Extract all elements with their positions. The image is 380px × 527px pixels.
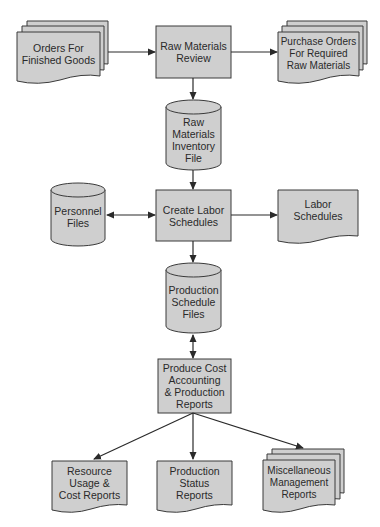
raw-materials-inventory-file-label: Raw Materials Inventory File — [166, 112, 221, 168]
produce-cost-accounting-label: Produce Cost Accounting & Production Rep… — [158, 359, 231, 413]
flowchart-canvas — [0, 0, 380, 527]
labor-schedules-label: Labor Schedules — [278, 190, 358, 230]
arrow-cost-to-resource-usage — [94, 413, 193, 459]
orders-for-finished-goods-label: Orders For Finished Goods — [17, 34, 100, 74]
raw-materials-review-label: Raw Materials Review — [156, 26, 231, 78]
production-status-reports-label: Production Status Reports — [157, 461, 232, 505]
create-labor-schedules-label: Create Labor Schedules — [156, 190, 231, 241]
purchase-orders-label: Purchase Orders For Required Raw Materia… — [278, 32, 359, 76]
production-schedule-files-label: Production Schedule Files — [166, 276, 221, 328]
resource-usage-cost-reports-label: Resource Usage & Cost Reports — [52, 461, 127, 505]
arrow-cost-to-misc-reports — [193, 413, 303, 448]
miscellaneous-management-reports-label: Miscellaneous Management Reports — [263, 461, 335, 505]
personnel-files-label: Personnel Files — [51, 196, 105, 238]
